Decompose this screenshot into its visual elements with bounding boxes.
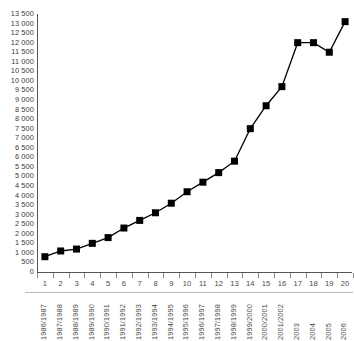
y-axis-tick-label: 7 500 [15,125,34,133]
x-axis-category-label: 1997/1998 [213,304,222,340]
y-axis-tick-label: 11 000 [11,58,34,66]
x-axis-tick [53,273,54,278]
y-axis-tick-label: 8 500 [15,106,34,114]
x-axis-tick [69,273,70,278]
x-axis-index-label: 3 [74,279,78,288]
data-point-marker: 1993/1994: 3100 [152,209,159,216]
y-axis-tick-label: 12 500 [11,29,34,37]
data-point-marker: 2001/2002: 9700 [278,83,285,90]
data-point-marker: 1987/1988: 1100 [57,247,64,254]
data-point-marker: 1994/1995: 3600 [168,200,175,207]
x-axis-category-label: 1988/1989 [71,304,80,340]
x-axis-category-label: 1989/1990 [87,304,96,340]
y-axis-tick-label: 10 500 [11,67,34,75]
x-axis-index-label: 1 [43,279,47,288]
x-axis-tick [100,273,101,278]
y-axis-label-group: 13 50013 00012 50012 00011 50011 00010 5… [0,0,36,280]
x-axis-index-label: 17 [293,279,301,288]
x-axis-category-label: 2000/2001 [260,304,269,340]
y-axis-tick-label: 10 000 [11,77,34,85]
x-axis-tick [132,273,133,278]
x-axis-separator [25,292,353,293]
y-axis-tick-label: 5 500 [15,163,34,171]
y-axis-tick-label: 0 [30,268,34,276]
x-axis-category-label: 2005 [324,323,333,340]
y-axis-tick-label: 9 000 [15,96,34,104]
y-axis-tick-label: 5 000 [15,172,34,180]
data-point-marker: 1989/1990: 1500 [89,240,96,247]
x-axis-index-label: 20 [341,279,349,288]
x-axis-category-label: 1986/1987 [39,304,48,340]
x-axis-tick [211,273,212,278]
y-axis-tick-label: 3 500 [15,201,34,209]
x-axis-tick [306,273,307,278]
x-axis-tick [84,273,85,278]
y-axis-tick-label: 4 500 [15,182,34,190]
y-axis-tick-label: 6 500 [15,144,34,152]
data-point-marker: 1999/2000: 7500 [247,125,254,132]
data-point-marker: 1995/1996: 4200 [184,188,191,195]
x-axis-tick [290,273,291,278]
x-axis-category-label: 1987/1988 [55,304,64,340]
x-axis-category-label: 1998/1999 [229,304,238,340]
x-axis-index-label: 5 [106,279,110,288]
x-axis-index-label: 9 [169,279,173,288]
data-point-marker: 1996/1997: 4700 [199,179,206,186]
data-point-marker: 2005: 11500 [326,49,333,56]
y-axis-tick-label: 500 [21,258,34,266]
x-axis-tick [195,273,196,278]
x-axis-category-label: 2003 [292,323,301,340]
y-axis-tick-label: 1 000 [15,249,34,257]
x-axis-category-label: 1990/1991 [102,304,111,340]
x-axis-category-label: 1993/1994 [150,304,159,340]
x-axis-index-label: 13 [230,279,238,288]
data-point-marker: 1992/1993: 2700 [136,217,143,224]
y-axis-tick-label: 8 000 [15,115,34,123]
x-axis-tick [242,273,243,278]
data-point-marker: 1988/1989: 1200 [73,246,80,253]
x-axis-tick [258,273,259,278]
x-axis-category-label: 2001/2002 [276,304,285,340]
x-axis-tick [337,273,338,278]
x-axis-index-label: 2 [59,279,63,288]
y-axis-tick-label: 4 000 [15,192,34,200]
data-point-marker: 1997/1998: 5200 [215,169,222,176]
x-axis-index-label: 19 [325,279,333,288]
y-axis-tick-label: 12 000 [11,39,34,47]
y-axis-tick-label: 6 000 [15,153,34,161]
x-axis-index-label: 10 [183,279,191,288]
x-axis-category-label: 1992/1993 [134,304,143,340]
data-point-marker: 1986/1987: 800 [41,253,48,260]
x-axis-index-label: 8 [153,279,157,288]
data-point-marker: 2003: 12000 [294,39,301,46]
x-axis-tick [179,273,180,278]
y-axis-tick-label: 13 500 [11,10,34,18]
data-point-marker: 1990/1991: 1800 [105,234,112,241]
x-axis-index-label: 7 [138,279,142,288]
x-axis-index-label: 11 [199,279,207,288]
series-polyline [45,22,345,257]
y-axis-tick-label: 3 000 [15,211,34,219]
x-axis-index-label: 15 [262,279,270,288]
x-axis-index-label: 6 [122,279,126,288]
x-axis-category-label: 2004 [308,323,317,340]
y-axis-tick-label: 2 000 [15,230,34,238]
x-axis-tick [37,273,38,278]
data-point-marker: 1998/1999: 5800 [231,158,238,165]
x-axis-tick [163,273,164,278]
x-axis-index-label: 4 [90,279,94,288]
x-axis-category-label: 1995/1996 [181,304,190,340]
x-axis-category-label: 2006 [339,323,348,340]
y-axis-tick-label: 9 500 [15,86,34,94]
line-chart: 13 50013 00012 50012 00011 50011 00010 5… [0,0,354,341]
x-axis-tick [116,273,117,278]
x-axis-index-label: 14 [246,279,254,288]
x-axis-index-label: 16 [278,279,286,288]
x-axis-tick [321,273,322,278]
data-point-marker: 1991/1992: 2300 [120,225,127,232]
data-point-marker: 2000/2001: 8700 [263,102,270,109]
data-series-line: 1986/1987: 8001987/1988: 11001988/1989: … [37,14,353,272]
x-axis-category-label: 1999/2000 [245,304,254,340]
data-point-marker: 2006: 13100 [342,18,349,25]
data-point-marker: 2004: 12000 [310,39,317,46]
